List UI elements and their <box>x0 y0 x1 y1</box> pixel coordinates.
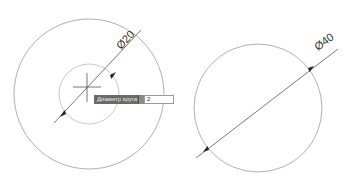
arrowhead-icon <box>203 146 209 152</box>
dynamic-input-prompt: Диаметр круга <box>94 95 138 104</box>
drawing-canvas[interactable]: Ø20 Ø40 <box>0 0 349 189</box>
dimension-left[interactable]: Ø20 <box>54 28 141 123</box>
outer-circle-left[interactable] <box>14 19 164 169</box>
preview-circle <box>59 64 119 124</box>
diameter-input[interactable]: 2 <box>144 95 174 104</box>
dynamic-input-tooltip: Диаметр круга 2 <box>94 95 174 104</box>
dimension-label-right: Ø40 <box>312 30 336 52</box>
dimension-label-left: Ø20 <box>114 28 137 51</box>
circle-right[interactable] <box>194 44 322 172</box>
dimension-right[interactable]: Ø40 <box>196 30 338 158</box>
